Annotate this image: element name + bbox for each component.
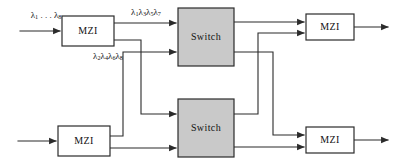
switch-bottom-label: Switch <box>191 122 221 133</box>
block-mzi-bottom-left[interactable]: MZI <box>58 126 110 156</box>
mzi-top-right-label: MZI <box>320 21 340 32</box>
mzi-bottom-left-label: MZI <box>74 135 94 146</box>
block-switch-top[interactable]: Switch <box>178 8 234 66</box>
wire-switch-bottom-to-mzi-top-right <box>234 33 304 114</box>
wire-mzi-bottom-left-to-switch-top <box>110 52 176 136</box>
switch-top-label: Switch <box>191 31 221 42</box>
wire-switch-top-to-mzi-bottom-right <box>234 52 304 135</box>
even-wavelength-text: λ2λ4λ6λ8 <box>93 51 123 62</box>
block-mzi-bottom-right[interactable]: MZI <box>306 127 354 153</box>
odd-wavelength-text: λ1λ3λ5λ7 <box>131 7 161 18</box>
label-even-wavelengths: λ2λ4λ6λ8 <box>93 51 123 62</box>
block-mzi-top-right[interactable]: MZI <box>306 14 354 40</box>
block-switch-bottom[interactable]: Switch <box>178 99 234 157</box>
input-wavelength-text: λ1 . . . λ8 <box>31 10 62 21</box>
mzi-bottom-right-label: MZI <box>320 134 340 145</box>
diagram-canvas: MZI Switch MZI MZI Switch MZI <box>0 0 399 168</box>
mzi-top-left-label: MZI <box>78 25 98 36</box>
label-input-wavelengths: λ1 . . . λ8 <box>31 10 62 21</box>
label-odd-wavelengths: λ1λ3λ5λ7 <box>131 7 161 18</box>
block-mzi-top-left[interactable]: MZI <box>62 16 114 46</box>
